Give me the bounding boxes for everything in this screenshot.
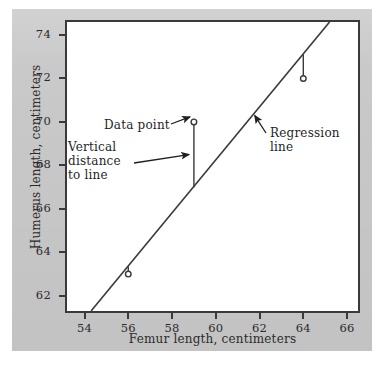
annotation-arrows xyxy=(0,0,387,369)
figure-scatter-regression: 62646668707274 54565860626466 Femur leng… xyxy=(0,0,387,369)
arrow-data-point xyxy=(171,117,190,124)
arrow-vertical-distance xyxy=(134,155,189,163)
arrow-regression-line xyxy=(255,116,266,133)
